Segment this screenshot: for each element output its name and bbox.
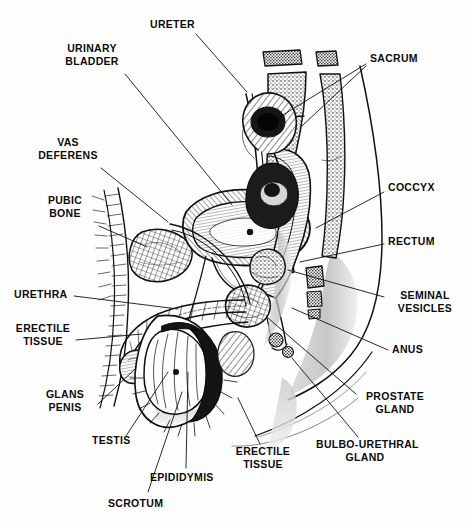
label-vas-deferens: VAS DEFERENS xyxy=(32,136,104,162)
label-sacrum: SACRUM xyxy=(370,52,418,65)
label-rectum: RECTUM xyxy=(388,235,435,248)
label-coccyx: COCCYX xyxy=(388,181,435,194)
seminal-vesicles-structure xyxy=(250,249,285,284)
bulb-erectile-tissue xyxy=(218,332,254,377)
label-scrotum: SCROTUM xyxy=(108,497,163,510)
label-urethra: URETHRA xyxy=(14,288,67,301)
label-bulbo-urethral-gland: BULBO-URETHRAL GLAND xyxy=(316,438,414,464)
anatomy-figure: URETER URINARY BLADDER SACRUM VAS DEFERE… xyxy=(0,0,473,523)
label-anus: ANUS xyxy=(392,343,423,356)
label-seminal-vesicles: SEMINAL VESICLES xyxy=(388,289,462,315)
pubic-bone-structure xyxy=(129,229,192,281)
label-erectile-tissue-bottom: ERECTILE TISSUE xyxy=(232,445,294,471)
label-urinary-bladder: URINARY BLADDER xyxy=(58,42,126,68)
prostate-gland-structure xyxy=(226,285,271,327)
label-epididymis: EPIDIDYMIS xyxy=(150,471,214,484)
label-erectile-tissue-left: ERECTILE TISSUE xyxy=(10,322,76,348)
label-glans-penis: GLANS PENIS xyxy=(34,388,96,414)
label-ureter: URETER xyxy=(150,18,195,31)
label-pubic-bone: PUBIC BONE xyxy=(32,194,98,220)
label-prostate-gland: PROSTATE GLAND xyxy=(358,390,432,416)
label-testis: TESTIS xyxy=(92,434,131,447)
